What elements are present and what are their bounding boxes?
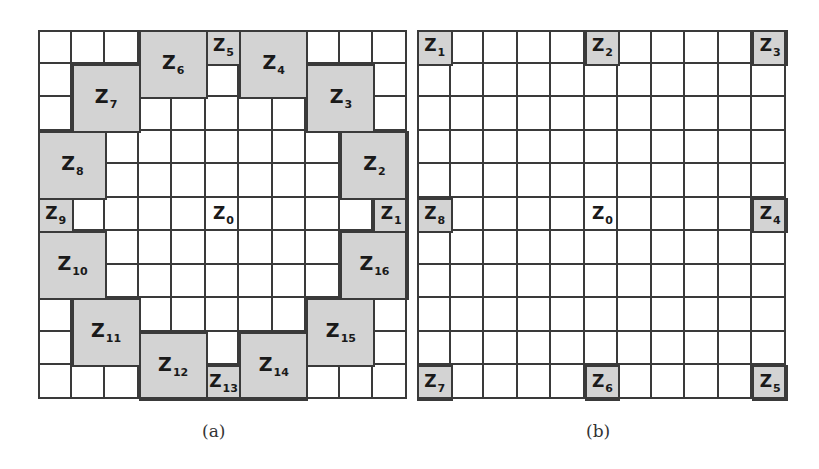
grid-cell [752,265,786,299]
grid-cell [105,164,139,198]
grid-cell [585,97,619,131]
grid-cell [417,265,451,299]
grid-cell [618,198,652,232]
zone-label: Z0 [592,205,613,226]
zone-z3: Z3 [306,64,375,133]
zone-z12: Z12 [139,332,208,401]
grid-cell [306,164,340,198]
grid-cell [752,64,786,98]
grid-cell [685,265,719,299]
zone-grid-a: Z6Z5Z4Z7Z3Z8Z2Z9Z0Z1Z10Z16Z11Z15Z12Z13Z1… [38,30,407,399]
grid-cell [518,265,552,299]
grid-cell [451,131,485,165]
grid-cell [752,164,786,198]
grid-cell [551,265,585,299]
grid-cell [484,131,518,165]
grid-cell [484,97,518,131]
zone-label: Z9 [45,205,66,226]
grid-cell [206,231,240,265]
grid-cell [139,164,173,198]
grid-cell [451,64,485,98]
grid-cell [451,365,485,399]
grid-cell [551,30,585,64]
grid-cell [518,198,552,232]
zone-z8: Z8 [38,131,107,200]
zone-z6: Z6 [139,30,208,99]
grid-cell [38,365,72,399]
grid-cell [206,64,240,98]
grid-cell [451,97,485,131]
grid-cell [38,64,72,98]
grid-cell [719,365,753,399]
grid-cell [752,231,786,265]
zone-z2: Z2 [585,30,621,66]
grid-cell [652,131,686,165]
grid-cell [518,131,552,165]
grid-cell [340,198,374,232]
grid-cell [585,265,619,299]
grid-cell [105,198,139,232]
zone-label: Z15 [326,321,356,344]
zone-label: Z8 [424,205,445,226]
zone-z16: Z16 [340,231,409,300]
grid-cell [618,365,652,399]
grid-cell [105,231,139,265]
grid-cell [518,298,552,332]
grid-cell [551,64,585,98]
grid-cell [484,30,518,64]
grid-cell [752,131,786,165]
grid-cell [719,97,753,131]
grid-cell [417,97,451,131]
grid-cell [484,365,518,399]
zone-z14: Z14 [239,332,308,401]
grid-cell [417,131,451,165]
grid-cell [752,332,786,366]
grid-cell [72,30,106,64]
zone-label: Z3 [330,87,352,110]
grid-cell [172,131,206,165]
zone-label: Z16 [359,254,389,277]
grid-cell [139,298,173,332]
zone-label: Z8 [61,154,83,177]
zone-label: Z6 [162,53,184,76]
grid-cell [451,298,485,332]
zone-z11: Z11 [72,298,141,367]
grid-cell [206,164,240,198]
grid-cell [719,298,753,332]
grid-cell [618,265,652,299]
grid-cell [518,30,552,64]
grid-cell [105,131,139,165]
zone-label: Z6 [592,373,613,394]
grid-cell [685,64,719,98]
grid-cell [719,231,753,265]
grid-cell [417,231,451,265]
grid-cell [719,265,753,299]
grid-cell [373,365,407,399]
grid-cell [652,265,686,299]
grid-cell [618,30,652,64]
zone-z0: Z0 [206,198,242,234]
grid-cell [373,332,407,366]
grid-cell [139,231,173,265]
grid-cell [585,131,619,165]
grid-cell [273,198,307,232]
grid-cell [38,332,72,366]
grid-cell [417,298,451,332]
grid-cell [618,231,652,265]
grid-cell [38,298,72,332]
grid-cell [417,164,451,198]
grid-cell [206,332,240,366]
grid-cell [239,265,273,299]
grid-cell [652,298,686,332]
grid-cell [652,30,686,64]
grid-cell [451,265,485,299]
grid-cell [518,365,552,399]
zone-z4: Z4 [752,198,788,234]
grid-cell [551,298,585,332]
grid-cell [72,365,106,399]
grid-cell [551,97,585,131]
zone-label: Z12 [158,355,188,378]
grid-cell [306,231,340,265]
grid-cell [652,198,686,232]
grid-cell [484,298,518,332]
